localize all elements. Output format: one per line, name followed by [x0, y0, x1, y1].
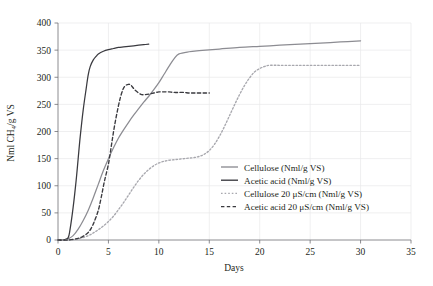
y-tick-label: 400: [37, 18, 52, 28]
x-tick-label: 35: [406, 247, 416, 257]
x-axis-title: Days: [224, 263, 244, 273]
methane-yield-line-chart: 050100150200250300350400 05101520253035 …: [0, 0, 433, 286]
y-tick-label: 0: [46, 235, 51, 245]
legend-label-2: Acetic acid (Nml/g VS): [244, 176, 331, 186]
x-tick-label: 30: [356, 247, 366, 257]
y-tick-label: 300: [37, 73, 52, 83]
legend-label-3: Cellulose 20 μS/cm (Nml/g VS): [244, 189, 362, 199]
y-tick-label: 150: [37, 154, 52, 164]
y-tick-label: 100: [37, 181, 52, 191]
y-tick-label: 200: [37, 127, 52, 137]
x-tick-label: 15: [205, 247, 215, 257]
x-tick-label: 25: [305, 247, 315, 257]
x-tick-label: 0: [56, 247, 61, 257]
chart-background: [0, 0, 433, 286]
legend-label-1: Cellulose (Nml/g VS): [244, 163, 324, 173]
chart-container: 050100150200250300350400 05101520253035 …: [0, 0, 433, 286]
x-tick-label: 5: [106, 247, 111, 257]
y-tick-label: 50: [42, 208, 52, 218]
x-tick-label: 20: [255, 247, 265, 257]
y-tick-label: 250: [37, 100, 52, 110]
x-tick-label: 10: [154, 247, 164, 257]
legend-label-4: Acetic acid 20 μS/cm (Nml/g VS): [244, 202, 369, 212]
y-tick-label: 350: [37, 46, 52, 56]
